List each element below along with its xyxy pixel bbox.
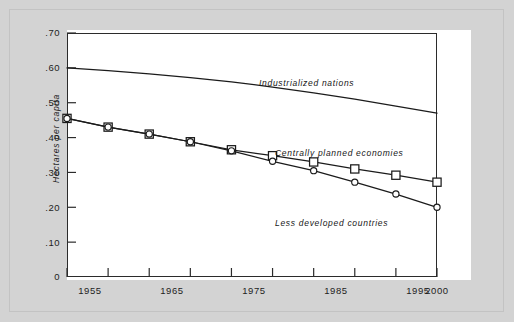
data-point-marker-circle: [146, 131, 152, 137]
xtick-label-1955: 1955: [67, 285, 113, 296]
ytick-label-070: .70: [26, 27, 60, 38]
ytick-label-020: .20: [26, 202, 60, 213]
series-label-industrialized: Industrialized nations: [259, 78, 354, 88]
chart-figure: .70 .60 .50 .40 .30 .20 .10 0 1955 1965 …: [0, 0, 514, 322]
ytick-label-010: .10: [26, 237, 60, 248]
data-point-marker-square: [392, 171, 400, 179]
data-point-marker-circle: [434, 204, 440, 210]
xtick-label-1975: 1975: [231, 285, 277, 296]
data-point-marker-circle: [311, 168, 317, 174]
data-point-marker-square: [433, 178, 441, 186]
series-layer: [63, 68, 441, 211]
series-line: [67, 118, 437, 207]
xtick-label-1965: 1965: [149, 285, 195, 296]
ytick-label-060: .60: [26, 62, 60, 73]
data-point-marker-square: [310, 158, 318, 166]
xtick-label-2000: 2000: [414, 285, 460, 296]
series-label-less-developed: Less developed countries: [275, 218, 388, 228]
series-line: [67, 68, 437, 113]
ytick-label-0: 0: [26, 271, 60, 282]
data-point-marker-circle: [269, 158, 275, 164]
data-point-marker-circle: [105, 124, 111, 130]
xtick-label-1985: 1985: [313, 285, 359, 296]
data-point-marker-circle: [352, 179, 358, 185]
plot-area: Hectares per capita Industrialized natio…: [67, 33, 437, 277]
y-axis-label: Hectares per capita: [51, 94, 61, 183]
data-point-marker-circle: [187, 139, 193, 145]
data-point-marker-square: [351, 165, 359, 173]
data-point-marker-circle: [64, 115, 70, 121]
data-point-marker-circle: [393, 191, 399, 197]
data-point-marker-circle: [228, 148, 234, 154]
series-label-centrally-planned: Centrally planned economies: [275, 148, 404, 158]
